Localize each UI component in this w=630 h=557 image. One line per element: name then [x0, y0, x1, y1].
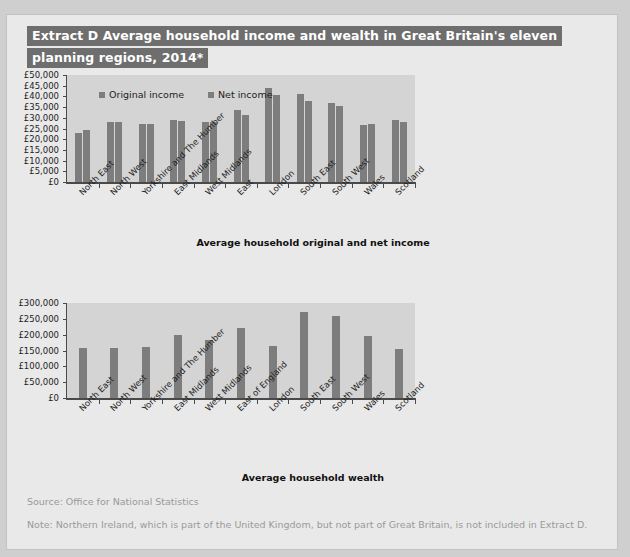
extract-panel: Extract D Average household income and w…: [6, 14, 618, 550]
bar: [110, 348, 118, 398]
legend-item-original-income: Original income: [99, 89, 184, 100]
legend-label-net-income: Net income: [218, 89, 273, 100]
legend-label-original-income: Original income: [109, 89, 184, 100]
bar: [83, 130, 90, 182]
x-tick-mark: [225, 399, 226, 404]
y-tick-label: £45,000: [9, 81, 59, 91]
y-tick-label: £200,000: [9, 330, 59, 340]
bar: [400, 122, 407, 182]
x-tick-mark: [415, 183, 416, 188]
x-tick-mark: [383, 183, 384, 188]
y-tick-label: £0: [9, 177, 59, 187]
y-tick-label: £250,000: [9, 314, 59, 324]
title-line-1: Extract D Average household income and w…: [27, 26, 562, 46]
bar: [364, 336, 372, 398]
y-tick-label: £50,000: [9, 377, 59, 387]
x-tick-mark: [415, 399, 416, 404]
y-tick-label: £150,000: [9, 346, 59, 356]
bar: [79, 348, 87, 398]
y-tick-label: £0: [9, 393, 59, 403]
x-tick-mark: [288, 183, 289, 188]
y-tick-label: £40,000: [9, 91, 59, 101]
x-tick-mark: [194, 399, 195, 404]
x-tick-mark: [99, 183, 100, 188]
bar: [115, 122, 122, 182]
x-tick-mark: [162, 399, 163, 404]
bar: [360, 125, 367, 182]
x-tick-mark: [257, 183, 258, 188]
bar: [139, 124, 146, 182]
wealth-chart-caption: Average household wealth: [7, 472, 619, 483]
x-tick-mark: [130, 399, 131, 404]
bar: [147, 124, 154, 182]
x-tick-mark: [288, 399, 289, 404]
bar: [332, 316, 340, 398]
bar: [368, 124, 375, 182]
bar: [300, 312, 308, 398]
y-tick-label: £30,000: [9, 113, 59, 123]
disclaimer-note: Note: Northern Ireland, which is part of…: [27, 518, 602, 531]
legend-swatch-icon: [99, 92, 105, 98]
y-tick-label: £35,000: [9, 102, 59, 112]
x-tick-mark: [352, 399, 353, 404]
y-axis-line: [66, 75, 67, 183]
y-tick-label: £300,000: [9, 298, 59, 308]
y-tick-label: £15,000: [9, 145, 59, 155]
income-chart-caption: Average household original and net incom…: [7, 237, 619, 248]
bar: [237, 328, 245, 398]
income-chart: £50,000£45,000£40,000£35,000£30,000£25,0…: [7, 61, 619, 261]
legend-swatch-icon: [208, 92, 214, 98]
x-tick-mark: [320, 183, 321, 188]
source-note: Source: Office for National Statistics: [27, 495, 602, 508]
y-tick-label: £50,000: [9, 70, 59, 80]
wealth-chart: £300,000£250,000£200,000£150,000£100,000…: [7, 287, 619, 487]
bar: [297, 94, 304, 182]
x-tick-mark: [225, 183, 226, 188]
legend-item-net-income: Net income: [208, 89, 273, 100]
y-tick-label: £10,000: [9, 156, 59, 166]
bar: [142, 347, 150, 398]
income-legend: Original income Net income: [99, 89, 273, 100]
x-tick-mark: [257, 399, 258, 404]
bar: [75, 133, 82, 182]
x-tick-mark: [130, 183, 131, 188]
y-tick-label: £20,000: [9, 134, 59, 144]
y-tick-label: £25,000: [9, 124, 59, 134]
x-tick-mark: [99, 399, 100, 404]
y-tick-label: £5,000: [9, 166, 59, 176]
bar: [392, 120, 399, 182]
x-tick-mark: [320, 399, 321, 404]
x-tick-mark: [194, 183, 195, 188]
y-axis-line: [66, 303, 67, 399]
bar: [336, 106, 343, 182]
y-tick-label: £100,000: [9, 361, 59, 371]
x-tick-mark: [352, 183, 353, 188]
bar: [395, 349, 403, 398]
bar: [305, 101, 312, 182]
x-tick-mark: [383, 399, 384, 404]
bar: [273, 95, 280, 182]
x-tick-mark: [162, 183, 163, 188]
bar: [265, 88, 272, 182]
